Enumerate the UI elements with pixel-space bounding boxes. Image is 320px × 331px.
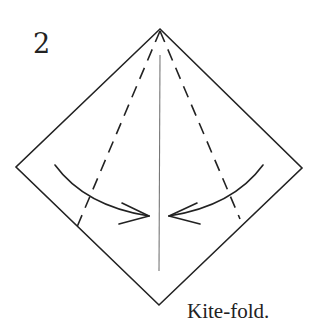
center-crease-line	[159, 55, 160, 271]
step-number: 2	[33, 30, 50, 57]
left-valley-fold-line	[77, 31, 160, 227]
right-valley-fold-line	[160, 31, 240, 219]
left-fold-arrow-icon	[55, 165, 149, 224]
step-caption: Kite-fold.	[187, 301, 269, 322]
right-fold-arrow-icon	[169, 165, 263, 224]
